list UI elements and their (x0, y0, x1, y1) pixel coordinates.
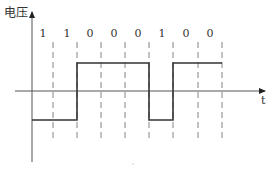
x-axis-label: t (261, 94, 266, 107)
bit-label: 0 (135, 27, 142, 40)
bit-label: 1 (159, 27, 166, 40)
waveform-diagram: 电压 t 1 1 0 0 0 1 0 0 (0, 0, 278, 171)
bit-label: 0 (87, 27, 94, 40)
artifact-dot (132, 163, 133, 164)
bit-label: 0 (111, 27, 118, 40)
bit-label: 1 (64, 27, 71, 40)
bit-label: 0 (183, 27, 190, 40)
y-axis-label: 电压 (4, 6, 28, 20)
bit-label: 0 (207, 27, 214, 40)
bit-label: 1 (40, 27, 47, 40)
bit-labels: 1 1 0 0 0 1 0 0 (40, 27, 214, 40)
